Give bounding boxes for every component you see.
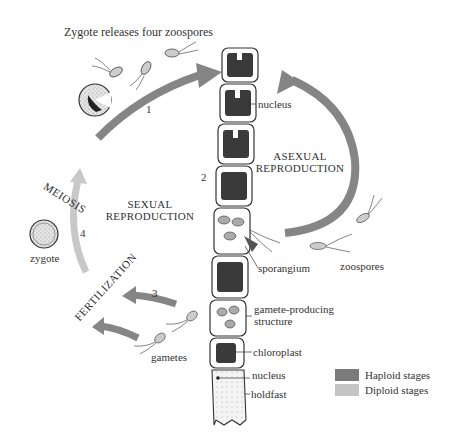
holdfast-label: holdfast	[251, 388, 286, 400]
asexual-line2: REPRODUCTION	[250, 162, 350, 174]
sexual-line1: SEXUAL	[100, 198, 200, 210]
nucleus-bottom-label: nucleus	[252, 369, 286, 381]
zygote-label: zygote	[30, 252, 59, 264]
legend: Haploid stages Diploid stages	[335, 367, 430, 397]
step-2-label: 2	[201, 171, 207, 183]
ulothrix-life-cycle-diagram: Zygote releases four zoospores 1 2 3 4 M…	[0, 0, 457, 446]
gamete-structure-line2: structure	[254, 315, 334, 327]
legend-item-diploid: Diploid stages	[335, 382, 430, 397]
gamete-structure-line1: gamete-producing	[254, 303, 334, 315]
asexual-reproduction-label: ASEXUAL REPRODUCTION	[250, 150, 350, 174]
step-3-label: 3	[152, 287, 158, 299]
sexual-line2: REPRODUCTION	[100, 210, 200, 222]
sporangium-label: sporangium	[258, 262, 310, 274]
gametes-label: gametes	[151, 351, 187, 363]
asexual-line1: ASEXUAL	[250, 150, 350, 162]
sexual-reproduction-label: SEXUAL REPRODUCTION	[100, 198, 200, 222]
chloroplast-label: chloroplast	[253, 346, 302, 358]
diploid-swatch-icon	[335, 384, 359, 396]
diagram-title: Zygote releases four zoospores	[64, 26, 213, 38]
nucleus-top-label: nucleus	[258, 98, 292, 110]
legend-diploid-label: Diploid stages	[365, 384, 428, 396]
arrow-4-icon	[70, 168, 87, 272]
gametes-icon	[134, 309, 199, 354]
zygote-icon	[30, 220, 58, 248]
zoospores-label: zoospores	[340, 260, 384, 272]
step-1-label: 1	[146, 103, 152, 115]
step-4-label: 4	[80, 227, 86, 239]
legend-item-haploid: Haploid stages	[335, 367, 430, 382]
legend-haploid-label: Haploid stages	[365, 369, 430, 381]
gamete-structure-label: gamete-producing structure	[254, 303, 334, 327]
haploid-swatch-icon	[335, 369, 359, 381]
